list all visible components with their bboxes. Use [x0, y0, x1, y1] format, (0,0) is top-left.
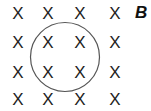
field-into-page-mark: X: [109, 33, 120, 52]
field-into-page-mark: X: [42, 63, 53, 82]
field-into-page-mark: X: [109, 63, 120, 82]
field-into-page-mark: X: [109, 90, 120, 109]
field-into-page-mark: X: [74, 90, 85, 109]
field-into-page-mark: X: [42, 4, 53, 23]
field-into-page-mark: X: [42, 90, 53, 109]
conducting-loop: [31, 23, 100, 92]
field-into-page-mark: X: [42, 33, 53, 52]
field-label-b: B: [135, 3, 147, 22]
field-into-page-mark: X: [12, 4, 23, 23]
field-into-page-mark: X: [12, 33, 23, 52]
field-into-page-mark: X: [12, 63, 23, 82]
field-into-page-mark: X: [74, 63, 85, 82]
field-into-page-mark: X: [74, 4, 85, 23]
field-into-page-mark: X: [12, 90, 23, 109]
field-into-page-mark: X: [74, 33, 85, 52]
magnetic-field-diagram: XXXXXXXXXXXXXXXX B: [0, 0, 151, 111]
field-into-page-mark: X: [109, 4, 120, 23]
field-marks: XXXXXXXXXXXXXXXX: [12, 4, 120, 109]
